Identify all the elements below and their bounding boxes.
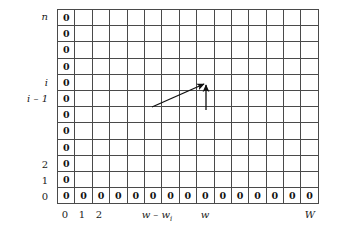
- cell-r0-c2[interactable]: [93, 10, 110, 26]
- cell-r7-c3[interactable]: [110, 123, 127, 139]
- cell-r0-c13[interactable]: [284, 10, 301, 26]
- cell-r9-c6[interactable]: [162, 156, 179, 172]
- cell-r10-c12[interactable]: [267, 172, 284, 188]
- cell-r2-c12[interactable]: [267, 42, 284, 58]
- cell-r7-c9[interactable]: [215, 123, 232, 139]
- cell-r7-c0[interactable]: 0: [58, 123, 75, 139]
- cell-r2-c4[interactable]: [128, 42, 145, 58]
- cell-r9-c7[interactable]: [180, 156, 197, 172]
- cell-r9-c11[interactable]: [249, 156, 266, 172]
- cell-r7-c7[interactable]: [180, 123, 197, 139]
- cell-r6-c7[interactable]: [180, 107, 197, 123]
- cell-r10-c6[interactable]: [162, 172, 179, 188]
- cell-r7-c13[interactable]: [284, 123, 301, 139]
- cell-r0-c6[interactable]: [162, 10, 179, 26]
- cell-r8-c12[interactable]: [267, 140, 284, 156]
- cell-r10-c11[interactable]: [249, 172, 266, 188]
- cell-r9-c9[interactable]: [215, 156, 232, 172]
- cell-r5-c0[interactable]: 0: [58, 91, 75, 107]
- cell-r7-c4[interactable]: [128, 123, 145, 139]
- cell-r10-c5[interactable]: [145, 172, 162, 188]
- cell-r4-c2[interactable]: [93, 75, 110, 91]
- cell-r3-c8[interactable]: [197, 59, 214, 75]
- cell-r1-c8[interactable]: [197, 26, 214, 42]
- cell-r0-c5[interactable]: [145, 10, 162, 26]
- cell-r1-c2[interactable]: [93, 26, 110, 42]
- cell-r11-c4[interactable]: 0: [128, 188, 145, 204]
- cell-r11-c5[interactable]: 0: [145, 188, 162, 204]
- cell-r6-c11[interactable]: [249, 107, 266, 123]
- cell-r8-c2[interactable]: [93, 140, 110, 156]
- cell-r2-c3[interactable]: [110, 42, 127, 58]
- cell-r7-c12[interactable]: [267, 123, 284, 139]
- cell-r7-c5[interactable]: [145, 123, 162, 139]
- cell-r4-c12[interactable]: [267, 75, 284, 91]
- cell-r1-c11[interactable]: [249, 26, 266, 42]
- cell-r7-c14[interactable]: [301, 123, 318, 139]
- cell-r9-c5[interactable]: [145, 156, 162, 172]
- cell-r6-c8[interactable]: [197, 107, 214, 123]
- cell-r1-c5[interactable]: [145, 26, 162, 42]
- cell-r5-c4[interactable]: [128, 91, 145, 107]
- cell-r4-c4[interactable]: [128, 75, 145, 91]
- cell-r3-c6[interactable]: [162, 59, 179, 75]
- cell-r3-c10[interactable]: [232, 59, 249, 75]
- cell-r5-c3[interactable]: [110, 91, 127, 107]
- cell-r4-c5[interactable]: [145, 75, 162, 91]
- cell-r8-c1[interactable]: [75, 140, 92, 156]
- cell-r11-c14[interactable]: 0: [301, 188, 318, 204]
- cell-r2-c2[interactable]: [93, 42, 110, 58]
- cell-r7-c10[interactable]: [232, 123, 249, 139]
- cell-r2-c11[interactable]: [249, 42, 266, 58]
- cell-r6-c14[interactable]: [301, 107, 318, 123]
- cell-r5-c13[interactable]: [284, 91, 301, 107]
- cell-r2-c10[interactable]: [232, 42, 249, 58]
- cell-r8-c14[interactable]: [301, 140, 318, 156]
- cell-r0-c12[interactable]: [267, 10, 284, 26]
- cell-r1-c1[interactable]: [75, 26, 92, 42]
- cell-r2-c8[interactable]: [197, 42, 214, 58]
- cell-r4-c6[interactable]: [162, 75, 179, 91]
- cell-r8-c7[interactable]: [180, 140, 197, 156]
- cell-r8-c13[interactable]: [284, 140, 301, 156]
- cell-r11-c7[interactable]: 0: [180, 188, 197, 204]
- cell-r1-c3[interactable]: [110, 26, 127, 42]
- cell-r7-c8[interactable]: [197, 123, 214, 139]
- cell-r5-c11[interactable]: [249, 91, 266, 107]
- cell-r3-c9[interactable]: [215, 59, 232, 75]
- cell-r5-c2[interactable]: [93, 91, 110, 107]
- cell-r5-c5[interactable]: [145, 91, 162, 107]
- cell-r9-c12[interactable]: [267, 156, 284, 172]
- cell-r1-c4[interactable]: [128, 26, 145, 42]
- cell-r5-c6[interactable]: [162, 91, 179, 107]
- cell-r2-c0[interactable]: 0: [58, 42, 75, 58]
- cell-r10-c3[interactable]: [110, 172, 127, 188]
- cell-r11-c10[interactable]: 0: [232, 188, 249, 204]
- cell-r7-c1[interactable]: [75, 123, 92, 139]
- cell-r10-c0[interactable]: 0: [58, 172, 75, 188]
- cell-r2-c9[interactable]: [215, 42, 232, 58]
- cell-r10-c8[interactable]: [197, 172, 214, 188]
- cell-r7-c6[interactable]: [162, 123, 179, 139]
- cell-r11-c9[interactable]: 0: [215, 188, 232, 204]
- cell-r1-c0[interactable]: 0: [58, 26, 75, 42]
- cell-r6-c3[interactable]: [110, 107, 127, 123]
- cell-r6-c13[interactable]: [284, 107, 301, 123]
- cell-r8-c6[interactable]: [162, 140, 179, 156]
- cell-r3-c11[interactable]: [249, 59, 266, 75]
- cell-r11-c12[interactable]: 0: [267, 188, 284, 204]
- cell-r0-c1[interactable]: [75, 10, 92, 26]
- cell-r5-c9[interactable]: [215, 91, 232, 107]
- cell-r9-c1[interactable]: [75, 156, 92, 172]
- cell-r6-c2[interactable]: [93, 107, 110, 123]
- cell-r2-c13[interactable]: [284, 42, 301, 58]
- cell-r8-c0[interactable]: 0: [58, 140, 75, 156]
- cell-r5-c7[interactable]: [180, 91, 197, 107]
- cell-r10-c9[interactable]: [215, 172, 232, 188]
- cell-r11-c13[interactable]: 0: [284, 188, 301, 204]
- cell-r4-c13[interactable]: [284, 75, 301, 91]
- cell-r10-c4[interactable]: [128, 172, 145, 188]
- cell-r8-c4[interactable]: [128, 140, 145, 156]
- cell-r6-c12[interactable]: [267, 107, 284, 123]
- cell-r3-c0[interactable]: 0: [58, 59, 75, 75]
